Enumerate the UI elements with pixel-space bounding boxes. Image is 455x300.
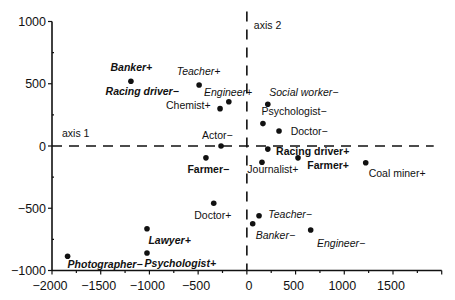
data-point-marker	[308, 227, 314, 233]
data-point-marker	[144, 226, 150, 232]
data-point-label: Engineer−	[317, 237, 365, 249]
data-point-label: Journalist+	[247, 163, 298, 175]
data-point-label: Doctor+	[194, 209, 231, 221]
data-points: Banker+Racing driver−Teacher+Engineer+Ch…	[65, 61, 426, 270]
data-point-marker	[128, 78, 134, 84]
data-point-marker	[144, 250, 150, 256]
data-point-label: Racing driver−	[106, 85, 179, 97]
data-point-label: Engineer+	[204, 86, 252, 98]
x-tick-label: −2000	[32, 279, 67, 293]
x-tick-label: −1500	[81, 279, 116, 293]
data-point-marker	[295, 155, 301, 161]
data-point-marker	[363, 160, 369, 166]
x-tick-label: 1000	[328, 279, 356, 293]
data-point-marker	[211, 200, 217, 206]
data-point-marker	[203, 155, 209, 161]
data-point-label: Teacher+	[177, 65, 221, 77]
axes: −1000−50005001000−2000−1500−1000−5000500…	[11, 15, 442, 293]
scatter-chart: −1000−50005001000−2000−1500−1000−5000500…	[0, 0, 455, 300]
data-point-label: Psychologist−	[261, 105, 326, 117]
data-point-marker	[250, 221, 256, 227]
data-point-label: Banker+	[110, 61, 152, 73]
y-tick-label: 500	[25, 77, 46, 91]
data-point-marker	[217, 106, 223, 112]
data-point-label: Banker−	[256, 229, 295, 241]
data-point-marker	[265, 146, 271, 152]
x-tick-label: 500	[283, 279, 304, 293]
data-point-label: Lawyer+	[148, 234, 190, 246]
data-point-label: Photographer−	[68, 258, 143, 270]
axis-2-label: axis 2	[254, 19, 282, 31]
y-tick-label: 1000	[18, 15, 46, 29]
data-point-label: Doctor−	[291, 125, 328, 137]
data-point-label: Farmer−	[187, 163, 229, 175]
data-point-label: Teacher−	[268, 208, 312, 220]
data-point-marker	[196, 82, 202, 88]
x-tick-label: −500	[182, 279, 210, 293]
data-point-label: Chemist+	[166, 99, 211, 111]
data-point-marker	[218, 143, 224, 149]
data-point-label: Coal miner+	[369, 167, 426, 179]
data-point-label: Actor−	[202, 129, 233, 141]
data-point-label: Psychologist+	[145, 257, 216, 269]
data-point-marker	[226, 99, 232, 105]
x-tick-label: 1500	[377, 279, 405, 293]
axis-1-label: axis 1	[62, 127, 90, 139]
y-tick-label: −500	[18, 202, 46, 216]
data-point-label: Racing driver+	[276, 145, 349, 157]
y-tick-label: −1000	[11, 264, 46, 278]
x-tick-label: −1000	[130, 279, 165, 293]
data-point-label: Farmer+	[307, 159, 349, 171]
data-point-marker	[260, 121, 266, 127]
y-tick-label: 0	[39, 140, 46, 154]
data-point-marker	[256, 213, 262, 219]
data-point-label: Social worker−	[269, 86, 338, 98]
data-point-marker	[276, 128, 282, 134]
reference-lines: axis 1axis 2	[52, 12, 434, 271]
x-tick-label: 0	[245, 279, 252, 293]
